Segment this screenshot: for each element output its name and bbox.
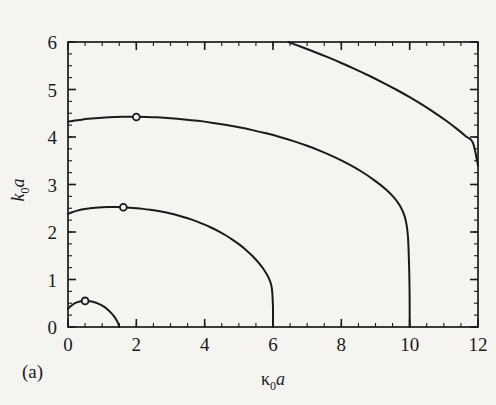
marker-mode-2 xyxy=(120,204,127,211)
x-tick-label: 8 xyxy=(337,334,347,355)
y-tick-label: 3 xyxy=(48,175,58,196)
y-tick-label: 0 xyxy=(48,317,58,338)
plot-canvas: 024681012 0123456 κ0a k0a (a) xyxy=(0,0,496,405)
x-tick-label: 4 xyxy=(200,334,210,355)
y-tick-label: 4 xyxy=(48,127,58,148)
y-tick-label: 6 xyxy=(48,32,58,53)
figure-panel: 024681012 0123456 κ0a k0a (a) xyxy=(0,0,496,405)
x-tick-label: 0 xyxy=(63,334,73,355)
x-tick-label: 12 xyxy=(469,334,488,355)
x-tick-label: 2 xyxy=(132,334,142,355)
figure-background xyxy=(0,0,496,405)
y-tick-label: 1 xyxy=(48,270,58,291)
marker-mode-1 xyxy=(82,297,89,304)
x-tick-label: 10 xyxy=(400,334,419,355)
panel-caption: (a) xyxy=(22,361,43,383)
marker-mode-3 xyxy=(133,114,140,121)
x-tick-label: 6 xyxy=(268,334,278,355)
y-tick-label: 2 xyxy=(48,222,58,243)
y-tick-label: 5 xyxy=(48,80,58,101)
